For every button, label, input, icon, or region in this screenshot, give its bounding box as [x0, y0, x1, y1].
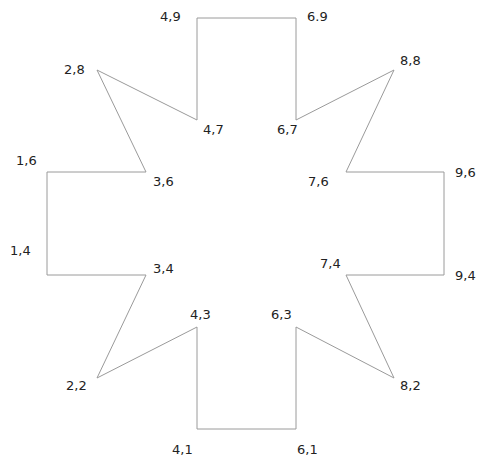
vertex-label-3-6: 3,6: [153, 175, 174, 188]
vertex-label-6-7: 6,7: [277, 123, 298, 136]
vertex-label-4-1: 4,1: [172, 443, 193, 456]
vertex-label-6-1: 6,1: [297, 443, 318, 456]
vertex-label-9-4: 9,4: [455, 269, 476, 282]
vertex-label-4-3: 4,3: [190, 308, 211, 321]
vertex-label-8-2: 8,2: [400, 379, 421, 392]
vertex-label-7-6: 7,6: [308, 175, 329, 188]
vertex-label-2-2: 2,2: [66, 379, 87, 392]
vertex-label-6-9: 6.9: [307, 10, 328, 23]
vertex-label-4-7: 4,7: [203, 123, 224, 136]
vertex-label-7-4: 7,4: [320, 257, 341, 270]
vertex-label-1-6: 1,6: [16, 154, 37, 167]
vertex-label-8-8: 8,8: [400, 54, 421, 67]
vertex-label-4-9: 4,9: [160, 10, 181, 23]
vertex-label-1-4: 1,4: [10, 244, 31, 257]
vertex-label-2-8: 2,8: [64, 63, 85, 76]
vertex-label-3-4: 3,4: [153, 262, 174, 275]
polygon-outline: [47, 18, 444, 429]
diagram-canvas: 4,9 6.9 2,8 8,8 4,7 6,7 1,6 3,6 7,6 9,6 …: [0, 0, 484, 470]
vertex-label-6-3: 6,3: [271, 308, 292, 321]
vertex-label-9-6: 9,6: [455, 166, 476, 179]
